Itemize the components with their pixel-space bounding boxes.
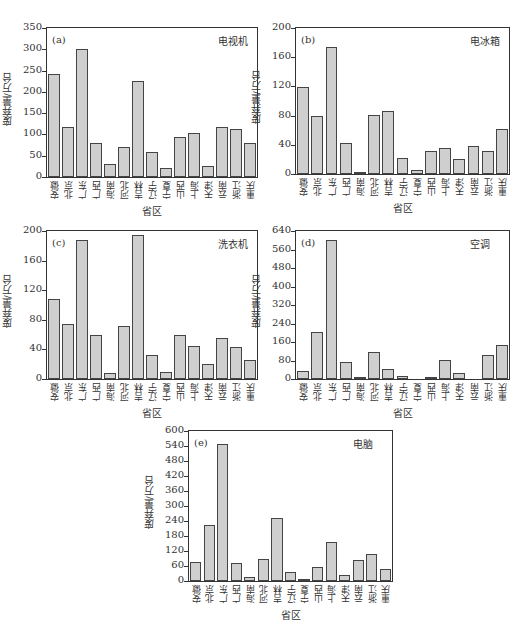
y-tick-label: 80 <box>12 313 42 324</box>
y-tick-label: 300 <box>154 499 184 510</box>
bar <box>397 376 409 379</box>
x-tick-label: 上海 <box>440 178 450 196</box>
bar <box>48 74 59 177</box>
plot-area-e <box>188 430 393 582</box>
x-tick-label: 安徽 <box>298 383 308 401</box>
bar <box>202 166 213 177</box>
y-tick-label: 0 <box>261 167 291 178</box>
bar <box>354 172 366 174</box>
x-tick-label: 天津 <box>454 383 464 401</box>
x-tick-label: 广东 <box>327 383 337 401</box>
x-tick-label: 辽宁 <box>147 383 157 401</box>
y-axis-label: 废弃量/万台 <box>0 275 15 328</box>
x-tick-label: 山西 <box>175 383 185 401</box>
x-tick-label: 上海 <box>189 181 199 199</box>
bar <box>496 345 508 379</box>
y-tick-label: 360 <box>154 484 184 495</box>
y-tick <box>42 92 46 93</box>
x-tick-label: 浙江 <box>367 585 377 603</box>
bar <box>90 335 101 379</box>
y-tick <box>184 581 188 582</box>
y-tick-label: 150 <box>12 106 42 117</box>
bar <box>453 373 465 379</box>
x-tick-label: 安徽 <box>298 178 308 196</box>
y-tick-label: 420 <box>154 469 184 480</box>
bar <box>244 143 255 177</box>
plot-area-a <box>46 27 258 178</box>
bar <box>104 373 115 379</box>
x-tick-label: 辽宁 <box>147 181 157 199</box>
x-tick-label: 浙江 <box>483 178 493 196</box>
x-tick-label: 天津 <box>203 181 213 199</box>
panel-tag: (b) <box>301 34 315 45</box>
x-tick-label: 河北 <box>119 383 129 401</box>
bar <box>174 335 185 379</box>
x-tick-label: 广西 <box>91 181 101 199</box>
y-tick <box>291 287 295 288</box>
y-tick <box>184 461 188 462</box>
x-tick-label: 北京 <box>312 178 322 196</box>
bar <box>90 143 101 177</box>
y-tick <box>291 342 295 343</box>
x-tick-label: 安徽 <box>49 383 59 401</box>
y-tick-label: 120 <box>154 544 184 555</box>
bar <box>132 81 143 177</box>
x-tick-label: 重庆 <box>497 178 507 196</box>
x-tick-label: 海南 <box>105 383 115 401</box>
y-tick-label: 320 <box>261 298 291 309</box>
x-tick-label: 浙江 <box>231 181 241 199</box>
bar <box>118 147 129 177</box>
y-tick <box>42 290 46 291</box>
y-tick <box>42 156 46 157</box>
y-axis-label: 废弃量/万台 <box>142 476 157 529</box>
bar <box>382 111 394 174</box>
bar <box>258 559 269 582</box>
y-tick <box>184 476 188 477</box>
bar <box>132 235 143 379</box>
x-axis-label: 省区 <box>393 200 413 215</box>
bar <box>380 569 391 581</box>
bar <box>311 116 323 174</box>
x-tick-label: 辽宁 <box>286 585 296 603</box>
y-tick-label: 40 <box>261 138 291 149</box>
bar <box>118 326 129 379</box>
bar <box>160 168 171 177</box>
x-tick-label: 宁夏 <box>161 181 171 199</box>
y-tick-label: 80 <box>261 354 291 365</box>
panel-title: 电脑 <box>353 436 373 451</box>
y-tick <box>291 57 295 58</box>
bar <box>326 240 338 379</box>
y-axis-label: 废弃量/万台 <box>0 73 15 126</box>
bar <box>146 152 157 177</box>
x-tick-label: 宁夏 <box>412 383 422 401</box>
y-tick-label: 160 <box>261 335 291 346</box>
bar <box>231 563 242 581</box>
x-tick-label: 浙江 <box>483 383 493 401</box>
bar <box>174 137 185 177</box>
bar <box>368 115 380 174</box>
y-tick <box>291 231 295 232</box>
bar <box>368 352 380 379</box>
x-tick-label: 云南 <box>469 178 479 196</box>
y-tick <box>42 113 46 114</box>
bar <box>482 151 494 174</box>
bar <box>298 579 309 582</box>
y-tick-label: 0 <box>12 372 42 383</box>
y-tick <box>42 379 46 380</box>
bar <box>188 133 199 177</box>
x-tick-label: 北京 <box>63 181 73 199</box>
x-tick-label: 云南 <box>353 585 363 603</box>
x-tick-label: 宁夏 <box>412 178 422 196</box>
x-tick-label: 北京 <box>63 383 73 401</box>
bar <box>230 347 241 379</box>
y-tick-label: 100 <box>12 127 42 138</box>
x-tick-label: 河北 <box>369 178 379 196</box>
x-tick-label: 海南 <box>355 178 365 196</box>
y-tick-label: 250 <box>12 64 42 75</box>
x-tick-label: 云南 <box>217 181 227 199</box>
panel-tag: (e) <box>194 437 208 448</box>
bar <box>160 372 171 379</box>
x-axis-label: 省区 <box>142 203 162 218</box>
bar <box>230 129 241 177</box>
y-tick <box>291 268 295 269</box>
